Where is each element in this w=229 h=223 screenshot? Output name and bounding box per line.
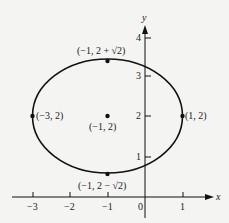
top-vertex-label: (−1, 2 + √2) [77,45,125,57]
top-vertex-dot [105,59,109,63]
x-axis-label: x [215,191,221,202]
x-tick-label: −2 [64,201,75,212]
y-tick-label: 4 [136,32,141,43]
bottom-vertex-dot [105,172,109,176]
left-vertex-label: (−3, 2) [36,110,63,122]
ellipse-graph: x −3 −2 −1 0 1 y 1 2 3 4 (−1, 2 + √2) (−… [0,0,229,223]
left-vertex-dot [30,114,34,118]
y-tick-label: 2 [136,110,141,121]
center-dot [105,114,109,118]
x-tick-label: 1 [180,201,185,212]
x-axis-arrow-icon [205,194,214,200]
bottom-vertex-label: (−1, 2 − √2) [78,180,126,192]
y-tick-label: 1 [136,151,141,162]
y-axis-label: y [141,12,147,23]
right-vertex-label: (1, 2) [185,110,207,122]
y-axis: y 1 2 3 4 [136,12,151,218]
center-label: (−1, 2) [89,121,116,133]
y-tick-label: 3 [136,70,141,81]
x-tick-label: 0 [138,201,143,212]
y-axis-arrow-icon [142,25,148,34]
x-tick-label: −3 [27,201,38,212]
x-tick-label: −1 [102,201,113,212]
x-axis: x −3 −2 −1 0 1 [12,191,221,212]
